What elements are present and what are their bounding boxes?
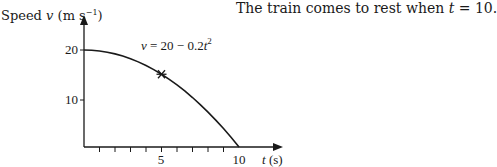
y-axis-arrow-icon bbox=[80, 15, 88, 25]
x-tick-5: 5 bbox=[158, 152, 165, 167]
x-axis-label: t (s) bbox=[262, 152, 283, 167]
x-axis-arrow-icon bbox=[273, 143, 283, 151]
x-tick-10: 10 bbox=[233, 152, 246, 167]
y-tick-20: 20 bbox=[65, 42, 78, 57]
speed-curve bbox=[84, 50, 239, 147]
y-tick-10: 10 bbox=[65, 92, 78, 107]
curve-equation: v = 20 − 0.2t2 bbox=[141, 36, 212, 53]
